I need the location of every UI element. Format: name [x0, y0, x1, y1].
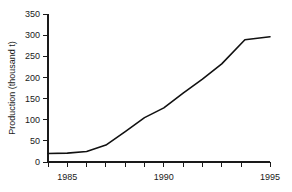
y-tick-label: 250: [25, 51, 40, 61]
y-tick-marks: [43, 14, 48, 162]
series-lines: [48, 37, 270, 154]
x-axis: 198519901995: [48, 162, 280, 182]
y-tick-label: 0: [35, 157, 40, 167]
y-tick-label: 50: [30, 136, 40, 146]
x-tick-label: 1985: [57, 172, 77, 182]
y-tick-labels: 050100150200250300350: [25, 9, 40, 167]
x-tick-marks: [48, 162, 270, 167]
x-tick-labels: 198519901995: [57, 172, 280, 182]
chart-container: 050100150200250300350 198519901995 Produ…: [0, 0, 292, 192]
y-tick-label: 300: [25, 30, 40, 40]
x-tick-label: 1990: [154, 172, 174, 182]
y-tick-label: 350: [25, 9, 40, 19]
y-axis-title: Production (thousand t): [7, 41, 17, 135]
y-axis: 050100150200250300350: [25, 9, 48, 167]
line-chart: 050100150200250300350 198519901995 Produ…: [0, 0, 292, 192]
y-tick-label: 200: [25, 73, 40, 83]
series-line: [48, 37, 270, 154]
x-tick-label: 1995: [260, 172, 280, 182]
y-tick-label: 150: [25, 94, 40, 104]
y-tick-label: 100: [25, 115, 40, 125]
